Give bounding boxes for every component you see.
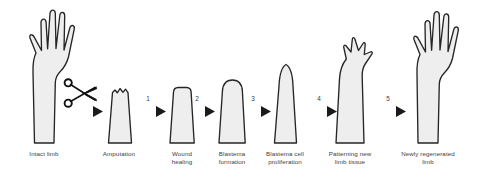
step-number-5: 5 [383,95,393,102]
stage-wound-healing-graphic [170,88,194,144]
stage-label-patterning-new-limb-tissue: Patterning new limb tissue [311,150,389,166]
arrow-5-icon [396,106,406,117]
arrow-1-icon [156,106,166,117]
hand-limb-icon [30,10,75,143]
regenerated-hand-icon [414,12,459,143]
flat-top-stump-icon [170,88,194,144]
arrow-4-icon [327,106,337,117]
step-number-1: 1 [143,95,153,102]
stage-label-amputation: Amputation [86,150,152,158]
amputated-stump-icon [109,89,132,144]
stage-patterning-new-limb-tissue-graphic [336,38,372,143]
scissors-icon [65,79,97,107]
step-number-4: 4 [314,95,324,102]
arrow-3-icon [261,106,271,117]
arrow-2-icon [205,106,215,117]
stage-label-intact-limb: Intact limb [9,150,79,158]
arrow-amputation-icon [93,106,103,117]
digit-bud-limb-icon [336,38,372,143]
stage-intact-limb-graphic [30,10,75,143]
step-number-3: 3 [248,95,258,102]
stage-label-newly-regenerated-limb: Newly regenerated limb [382,150,474,166]
stage-blastema-formation-graphic [219,80,245,143]
domed-blastema-icon [219,80,245,143]
stage-blastema-cell-proliferation-graphic [275,65,297,144]
limb-regeneration-figure: 1 2 3 4 5 Intact limb Amputation Wound h… [0,0,491,181]
stage-newly-regenerated-limb-graphic [414,12,459,143]
elongated-blastema-icon [275,65,297,144]
step-number-2: 2 [192,95,202,102]
stage-amputation-graphic [109,89,132,144]
